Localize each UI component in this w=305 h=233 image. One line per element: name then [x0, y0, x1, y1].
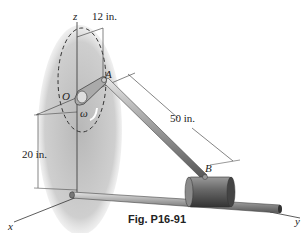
- pin-b: [203, 175, 208, 180]
- dim-50-ext: [210, 160, 240, 165]
- guide-rod-end: [70, 192, 75, 198]
- dim-50-line-b: [192, 128, 233, 161]
- rotation-disk-shading: [38, 25, 122, 233]
- dim-50-label: 50 in.: [170, 112, 195, 124]
- point-a-label: A: [104, 68, 112, 80]
- guide-rod-tip: [278, 205, 282, 213]
- point-b-label: B: [205, 162, 212, 174]
- point-o-label: O: [62, 90, 70, 102]
- x-axis-label: x: [7, 220, 13, 232]
- dim-12-label: 12 in.: [92, 10, 117, 22]
- omega-label: ω: [80, 107, 88, 119]
- z-axis-label: z: [72, 10, 78, 22]
- collar-face-left: [185, 177, 193, 207]
- dim-20-label: 20 in.: [22, 148, 47, 160]
- collar-face-right: [227, 177, 235, 207]
- y-axis-label: y: [294, 215, 300, 227]
- figure-caption: Fig. P16-91: [128, 213, 186, 225]
- mechanism-diagram: z x y 12 in. 20 in. 50 in. B A O ω Fig. …: [0, 0, 305, 233]
- collar: [188, 177, 232, 207]
